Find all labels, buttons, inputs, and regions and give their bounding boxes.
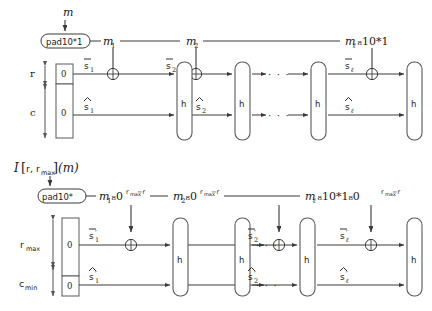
bottom-capacity-label-sub: min — [25, 284, 37, 292]
bottom-h-label-1: h — [177, 255, 182, 265]
top-sbar1-subscript: 1 — [90, 66, 94, 74]
top-h-label-2: h — [239, 99, 244, 109]
bottom-sbar1-base: s — [89, 231, 94, 241]
bottom-permutation-block-2: h — [235, 218, 250, 296]
bottom-init-rate-value: 0 — [67, 240, 72, 250]
top-pad-node: pad10*1 — [41, 34, 90, 48]
bottom-sbarl-base: s — [340, 231, 345, 241]
top-sbar2-base: s — [166, 61, 171, 71]
bottom-m1-tail: ₈0 — [112, 190, 123, 203]
top-h-label-3: h — [315, 99, 320, 109]
bottom-xor-last — [365, 239, 376, 250]
top-init-rate-value: 0 — [61, 69, 66, 79]
top-shatl-base: s — [345, 102, 350, 112]
bottom-shatl-base: s — [340, 272, 345, 282]
bottom-ellipsis-rate: · · · — [256, 240, 278, 251]
top-ml-subscript: ℓ — [352, 42, 356, 50]
top-shat1-subscript: 1 — [90, 107, 94, 115]
top-message-block-last: m ℓ ₈10*1 — [345, 35, 388, 50]
bottom-shat1-base: s — [89, 272, 94, 282]
top-xor-1 — [107, 68, 118, 79]
bottom-m1-exp: r — [126, 188, 129, 196]
bottom-input-r: r, — [26, 163, 33, 174]
bottom-ml-mid: ₈10*1₈0 — [318, 190, 360, 203]
top-ml-suffix: ₈10*1 — [358, 35, 389, 48]
bottom-sbar2-prime: ′ — [254, 228, 256, 237]
bottom-rate-label-sub: max — [26, 245, 40, 253]
top-rate-label: r — [30, 68, 35, 79]
top-shat2-base: s — [196, 102, 201, 112]
top-initial-state-block: 0 0 — [56, 64, 73, 138]
bottom-rate-label: r — [20, 239, 24, 250]
top-ellipsis-rate: · · · — [268, 69, 290, 80]
bottom-input-I: I — [13, 161, 19, 175]
top-sbarl-subscript: ℓ — [350, 66, 354, 74]
bottom-h-label-4: h — [411, 255, 416, 265]
bottom-pad-node: pad10* — [38, 189, 86, 203]
bottom-ml-exp-tail: −r — [392, 188, 400, 196]
top-shat2-subscript: 2 — [202, 107, 206, 115]
bottom-ml-subscript: ℓ — [312, 197, 316, 205]
bottom-shatl-prime: ′ — [346, 269, 348, 278]
bottom-sbar2-base: s — [248, 231, 253, 241]
bottom-initial-state-block: 0 0 — [62, 218, 79, 296]
bottom-capacity-label: c — [19, 278, 24, 289]
top-permutation-block-2: h — [235, 62, 250, 140]
bottom-init-cap-value: 0 — [67, 281, 72, 291]
top-capacity-label: c — [30, 107, 36, 118]
bottom-input-m: (m) — [58, 161, 79, 175]
bottom-m2-exp-tail: −r — [211, 188, 219, 196]
top-sbarl-base: s — [345, 61, 350, 71]
bottom-input-rmax: r — [36, 163, 40, 174]
top-ellipsis-cap: · · · — [268, 110, 290, 121]
bottom-permutation-block-3: h — [300, 218, 315, 296]
bottom-permutation-block-1: h — [173, 218, 188, 296]
bottom-m1-exp-tail: −r — [137, 188, 145, 196]
top-sbar1-base: s — [84, 61, 89, 71]
figure-canvas: m pad10*1 m 1 m 2 m ℓ ₈10*1 — [0, 0, 432, 311]
bottom-shat2-prime: ′ — [254, 269, 256, 278]
bottom-xor-1 — [125, 239, 136, 250]
top-permutation-block-3: h — [311, 62, 326, 140]
top-permutation-block-1: h — [177, 62, 192, 140]
bottom-ml-exp: r — [381, 188, 384, 196]
top-sbar2-subscript: 2 — [172, 66, 176, 74]
top-init-cap-value: 0 — [61, 108, 66, 118]
bottom-shat1-prime: ′ — [95, 269, 97, 278]
top-h-label-1: h — [181, 99, 186, 109]
bottom-shat2-base: s — [248, 272, 253, 282]
bottom-pad-label: pad10* — [42, 192, 73, 202]
bottom-ellipsis-cap: · · · — [256, 280, 278, 291]
bottom-m2-tail: ₈0 — [186, 190, 197, 203]
top-shat1-base: s — [84, 102, 89, 112]
top-input-label: m — [63, 6, 73, 19]
top-h-label-4: h — [411, 99, 416, 109]
top-permutation-block-4: h — [407, 62, 422, 140]
top-xor-last — [366, 68, 377, 79]
bottom-sbar1-prime: ′ — [95, 228, 97, 237]
bottom-sbarl-prime: ′ — [346, 228, 348, 237]
bottom-permutation-block-4: h — [407, 218, 422, 296]
top-pad-label: pad10*1 — [46, 37, 82, 47]
bottom-m2-exp: r — [200, 188, 203, 196]
bottom-h-label-3: h — [304, 255, 309, 265]
top-shatl-subscript: ℓ — [350, 107, 354, 115]
bottom-h-label-2: h — [239, 255, 244, 265]
